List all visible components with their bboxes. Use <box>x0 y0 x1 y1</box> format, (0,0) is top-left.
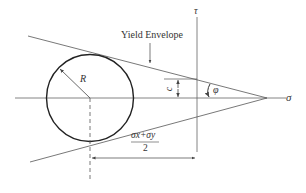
friction-angle-label: φ <box>213 85 219 95</box>
center-numerator-label: σx+σy <box>131 131 155 141</box>
center-denominator-label: 2 <box>143 144 148 154</box>
sigma-axis-label: σ <box>286 92 291 103</box>
yield-envelope-label: Yield Envelope <box>121 30 183 40</box>
tau-axis-label: τ <box>194 6 198 16</box>
mohr-coulomb-diagram: Yield Envelope τ σ R c φ σx+σy 2 <box>0 0 306 193</box>
friction-angle-arc <box>208 84 210 97</box>
upper-yield-envelope <box>28 36 267 98</box>
radius-label: R <box>80 74 86 84</box>
cohesion-label: c <box>164 87 174 91</box>
